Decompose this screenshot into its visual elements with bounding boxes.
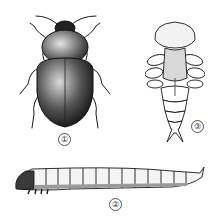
label-pupa: ③	[191, 120, 204, 133]
larva-drawing	[12, 163, 208, 197]
label-larva: ②	[109, 198, 122, 211]
label-adult: ①	[58, 133, 71, 146]
adult-beetle-drawing	[10, 10, 120, 135]
faint-caption	[50, 212, 200, 216]
